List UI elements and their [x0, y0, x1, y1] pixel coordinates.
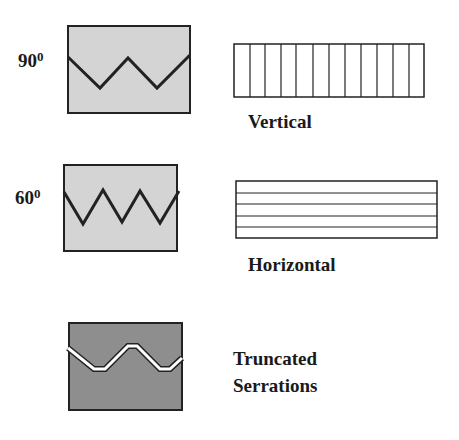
serration-60-box	[64, 165, 179, 251]
vertical-label: Vertical	[248, 111, 312, 133]
horizontal-label: Horizontal	[248, 254, 336, 276]
truncated-label-line2: Serrations	[233, 375, 317, 397]
truncated-serration-box	[68, 323, 182, 410]
angle-90-label: 900	[18, 50, 44, 72]
serration-90-box	[68, 26, 190, 113]
truncated-label-line1: Truncated	[233, 348, 317, 370]
diagram-canvas	[0, 0, 459, 440]
angle-60-label: 600	[15, 187, 41, 209]
horizontal-pattern	[236, 181, 437, 238]
vertical-pattern	[234, 44, 424, 97]
